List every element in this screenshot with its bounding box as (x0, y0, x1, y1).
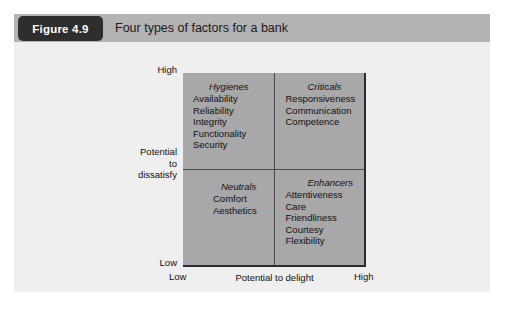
y-axis-title-line-3: dissatisfy (114, 169, 177, 181)
quadrant-criticals-item: Communication (286, 105, 365, 117)
quadrant-criticals-item: Competence (286, 116, 365, 128)
y-axis-title-line-1: Potential (114, 146, 177, 158)
figure-title: Four types of factors for a bank (115, 14, 288, 42)
figure-header: Figure 4.9 Four types of factors for a b… (14, 14, 490, 42)
x-axis-title: Potential to delight (183, 272, 366, 283)
quadrant-enhancers-title: Enhancers (308, 177, 365, 189)
quadrant-enhancers-item: Care (286, 201, 365, 213)
figure-number-badge: Figure 4.9 (18, 16, 103, 41)
y-axis-low-tick-label: Low (132, 257, 177, 268)
quadrant-neutrals-title: Neutrals (221, 181, 274, 193)
quadrant-neutrals-item: Aesthetics (213, 205, 274, 217)
x-axis-high-tick-label: High (354, 271, 374, 282)
quadrant-enhancers-item: Courtesy (286, 224, 365, 236)
quadrant-enhancers: Enhancers Attentiveness Care Friendlines… (274, 169, 365, 265)
y-axis-title-line-2: to (114, 158, 177, 170)
quadrant-hygienes-item: Functionality (193, 128, 274, 140)
quadrant-criticals-title: Criticals (308, 81, 365, 93)
quadrant-enhancers-item: Attentiveness (286, 189, 365, 201)
quadrant-hygienes-item: Availability (193, 93, 274, 105)
plot-area: Hygienes Availability Reliability Integr… (183, 73, 366, 267)
y-axis-high-tick-label: High (132, 64, 177, 75)
y-axis-title: Potential to dissatisfy (114, 146, 177, 181)
quadrant-enhancers-item: Friendliness (286, 212, 365, 224)
quadrant-neutrals: Neutrals Comfort Aesthetics (183, 169, 274, 265)
quadrant-hygienes-item: Security (193, 139, 274, 151)
quadrant-hygienes: Hygienes Availability Reliability Integr… (183, 73, 274, 169)
quadrant-hygienes-item: Integrity (193, 116, 274, 128)
quadrant-criticals-item: Responsiveness (286, 93, 365, 105)
quadrant-criticals: Criticals Responsiveness Communication C… (274, 73, 365, 169)
quadrant-chart: High Potential to dissatisfy Low Hygiene… (14, 42, 490, 292)
quadrant-hygienes-item: Reliability (193, 105, 274, 117)
quadrant-enhancers-item: Flexibility (286, 235, 365, 247)
figure-panel: Figure 4.9 Four types of factors for a b… (14, 14, 490, 292)
quadrant-hygienes-title: Hygienes (209, 81, 274, 93)
quadrant-neutrals-item: Comfort (213, 193, 274, 205)
